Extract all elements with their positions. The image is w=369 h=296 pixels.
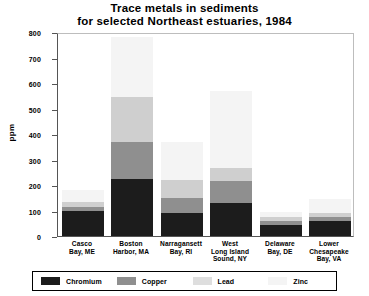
- y-axis-tick-mark: [52, 237, 57, 238]
- x-axis-label-line: Lower: [299, 240, 359, 248]
- bar-segment-chromium[interactable]: [210, 203, 252, 236]
- bar-segment-lead[interactable]: [260, 217, 302, 221]
- bar-segment-lead[interactable]: [309, 213, 351, 217]
- bar-stack[interactable]: [161, 142, 203, 236]
- bar-segment-chromium[interactable]: [161, 213, 203, 236]
- bar-segment-lead[interactable]: [210, 168, 252, 181]
- y-axis-label: ppm: [7, 113, 16, 153]
- legend-label: Chromium: [66, 278, 102, 285]
- bar-segment-copper[interactable]: [309, 217, 351, 221]
- y-axis-tick-label: 400: [29, 132, 41, 139]
- bar-segment-zinc[interactable]: [111, 37, 153, 97]
- legend-label: Zinc: [293, 278, 308, 285]
- bar-segment-copper[interactable]: [161, 198, 203, 213]
- legend-swatch-copper: [117, 277, 136, 285]
- y-axis-tick-label: 800: [29, 30, 41, 37]
- bar-segment-copper[interactable]: [62, 207, 104, 211]
- legend-swatch-zinc: [268, 277, 287, 285]
- chart-legend: ChromiumCopperLeadZinc: [32, 271, 337, 291]
- legend-item-zinc[interactable]: Zinc: [260, 277, 336, 285]
- legend-swatch-lead: [193, 277, 212, 285]
- bar-segment-zinc[interactable]: [210, 91, 252, 169]
- bar-segment-lead[interactable]: [161, 180, 203, 198]
- bar-segment-zinc[interactable]: [260, 212, 302, 217]
- x-axis-tick-label: LowerChesapeakeBay, VA: [299, 240, 359, 263]
- bar-stack[interactable]: [210, 91, 252, 236]
- chart-figure: Trace metals in sediments for selected N…: [0, 0, 369, 296]
- bar-segment-zinc[interactable]: [309, 199, 351, 214]
- bar-segment-chromium[interactable]: [309, 221, 351, 236]
- x-axis-label-line: Bay, VA: [299, 255, 359, 263]
- plot-area: [57, 33, 354, 237]
- y-axis-tick-label: 200: [29, 183, 41, 190]
- bar-segment-zinc[interactable]: [62, 190, 104, 201]
- y-axis-tick-label: 600: [29, 81, 41, 88]
- bar-segment-lead[interactable]: [62, 202, 104, 207]
- y-axis: ppm 0100200300400500600700800: [0, 0, 57, 296]
- x-axis-label-line: Sound, NY: [200, 255, 260, 263]
- bar-segment-chromium[interactable]: [111, 179, 153, 236]
- legend-item-chromium[interactable]: Chromium: [33, 277, 109, 285]
- y-axis-tick-label: 500: [29, 106, 41, 113]
- legend-label: Copper: [142, 278, 167, 285]
- bar-segment-chromium[interactable]: [260, 225, 302, 236]
- bar-stack[interactable]: [309, 199, 351, 236]
- bar-segment-chromium[interactable]: [62, 211, 104, 237]
- legend-swatch-chromium: [41, 277, 60, 285]
- bar-stack[interactable]: [62, 190, 104, 236]
- bar-segment-lead[interactable]: [111, 97, 153, 142]
- bar-stack[interactable]: [111, 37, 153, 236]
- legend-item-lead[interactable]: Lead: [185, 277, 261, 285]
- bar-segment-zinc[interactable]: [161, 142, 203, 180]
- bar-segment-copper[interactable]: [260, 221, 302, 225]
- bar-stack[interactable]: [260, 212, 302, 236]
- y-axis-tick-label: 0: [37, 234, 41, 241]
- y-axis-tick-label: 700: [29, 55, 41, 62]
- legend-label: Lead: [218, 278, 235, 285]
- x-axis-label-line: Chesapeake: [299, 248, 359, 256]
- y-axis-tick-label: 300: [29, 157, 41, 164]
- bar-segment-copper[interactable]: [111, 142, 153, 179]
- legend-item-copper[interactable]: Copper: [109, 277, 185, 285]
- y-axis-tick-label: 100: [29, 208, 41, 215]
- bar-segment-copper[interactable]: [210, 181, 252, 203]
